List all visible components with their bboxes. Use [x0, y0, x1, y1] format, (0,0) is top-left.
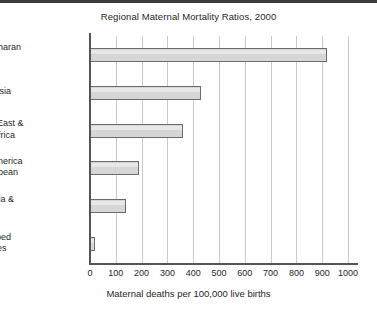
gridline-600 [245, 36, 246, 263]
gridline-900 [322, 36, 323, 263]
gridline-500 [219, 36, 220, 263]
category-label-line: Latin America [0, 156, 88, 168]
x-tick-label-600: 600 [237, 268, 252, 278]
bar-latin-america-caribbean [90, 161, 139, 175]
chart-title: Regional Maternal Mortality Ratios, 2000 [0, 11, 377, 22]
gridline-300 [167, 36, 168, 263]
category-label-line: South Asia [0, 86, 88, 98]
x-tick-label-0: 0 [87, 268, 92, 278]
category-label-line: Middle East & [0, 118, 88, 130]
bar-highlight [91, 239, 94, 243]
category-label-1: South Asia [0, 86, 88, 98]
bar-east-asia-pacific [90, 199, 126, 213]
x-tick-label-100: 100 [108, 268, 123, 278]
x-tick-label-500: 500 [211, 268, 226, 278]
x-tick-label-400: 400 [186, 268, 201, 278]
bar-south-asia [90, 86, 201, 100]
x-tick-label-300: 300 [160, 268, 175, 278]
y-axis-spine [89, 33, 91, 264]
category-label-2: Middle East &North Africa [0, 118, 88, 141]
category-label-line: Sub-Saharan [0, 42, 88, 54]
bar-middle-east-north-africa [90, 124, 183, 138]
bar-highlight [91, 88, 200, 92]
category-label-line: Africa [0, 54, 88, 66]
category-label-line: North Africa [0, 130, 88, 142]
category-label-0: Sub-SaharanAfrica [0, 42, 88, 65]
gridline-200 [142, 36, 143, 263]
category-label-line: Developed [0, 232, 88, 244]
bar-sub-saharan-africa [90, 48, 327, 62]
bar-highlight [91, 50, 326, 54]
x-axis-spine [89, 263, 358, 265]
bar-highlight [91, 126, 182, 130]
category-label-5: DevelopedCountries [0, 232, 88, 255]
x-tick-label-200: 200 [134, 268, 149, 278]
category-label-line: Countries [0, 243, 88, 255]
bar-highlight [91, 163, 138, 167]
gridline-400 [193, 36, 194, 263]
gridline-800 [296, 36, 297, 263]
x-tick-label-900: 900 [315, 268, 330, 278]
x-axis-title: Maternal deaths per 100,000 live births [0, 288, 377, 299]
category-label-line: East Asia & [0, 194, 88, 206]
bar-highlight [91, 201, 125, 205]
x-tick-label-800: 800 [289, 268, 304, 278]
category-label-3: Latin America& Caribbean [0, 156, 88, 179]
x-tick-label-1000: 1000 [338, 268, 358, 278]
category-label-line: & Caribbean [0, 167, 88, 179]
x-tick-label-700: 700 [263, 268, 278, 278]
gridline-1000 [348, 36, 349, 263]
category-label-4: East Asia &Pacific [0, 194, 88, 217]
gridline-700 [271, 36, 272, 263]
category-label-line: Pacific [0, 205, 88, 217]
plot-area [90, 36, 348, 263]
chart-figure: Regional Maternal Mortality Ratios, 2000… [0, 0, 377, 318]
gridline-100 [116, 36, 117, 263]
